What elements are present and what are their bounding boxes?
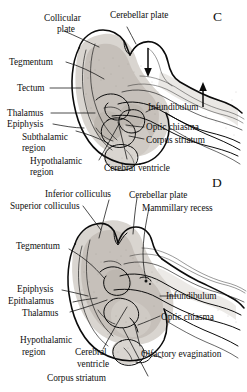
- panel-letter-c: C: [213, 9, 222, 24]
- panel-c: Collicular plate Cerebellar plate Tegmen…: [7, 9, 244, 177]
- mammillary-recess-marker: [145, 280, 148, 283]
- label-d-epithalamus: Epithalamus: [8, 296, 54, 306]
- label-d-olfactory-evagination: Olfactory evagination: [141, 349, 222, 359]
- label-d-cerebral-ventricle-line2: ventricle: [77, 359, 109, 369]
- label-d-cerebral-ventricle-line1: Cerebral: [75, 347, 107, 357]
- label-c-subthalamic-region-line1: Subthalamic: [22, 132, 68, 142]
- label-c-tegmentum: Tegmentum: [9, 57, 54, 67]
- label-c-subthalamic-region-line2: region: [22, 143, 46, 153]
- mammillary-recess-marker-2: [149, 283, 151, 285]
- label-d-inferior-colliculus: Inferior colliculus: [45, 189, 111, 199]
- c-arrow-down: [144, 48, 152, 77]
- label-c-epiphysis: Epiphysis: [7, 119, 44, 129]
- label-c-infundibulum: Infundibulum: [148, 102, 199, 112]
- anatomical-figure: Collicular plate Cerebellar plate Tegmen…: [0, 0, 247, 392]
- label-c-thalamus: Thalamus: [7, 108, 44, 118]
- label-d-tegmentum: Tegmentum: [16, 241, 61, 251]
- label-c-optic-chiasma: Optic chiasma: [146, 122, 199, 132]
- label-c-collicular-plate-line2: plate: [57, 24, 75, 34]
- label-d-superior-colliculus: Superior colliculus: [10, 201, 80, 211]
- figure-canvas: Collicular plate Cerebellar plate Tegmen…: [0, 0, 247, 392]
- leader-c-cerebellar-plate: [127, 27, 136, 44]
- label-c-hypothalamic-region-line2: region: [30, 167, 54, 177]
- leader-d-cerebellar-plate: [133, 198, 137, 234]
- label-d-hypothalamic-region-line2: region: [22, 347, 46, 357]
- label-c-corpus-striatum: Corpus striatum: [146, 135, 206, 145]
- panel-letter-d: D: [212, 175, 222, 190]
- label-d-optic-chiasma: Optic chiasma: [161, 312, 214, 322]
- label-d-cerebellar-plate: Cerebellar plate: [129, 190, 187, 200]
- label-c-hypothalamic-region-line1: Hypothalamic: [30, 156, 82, 166]
- label-d-infundibulum: Infundibulum: [166, 291, 217, 301]
- label-c-cerebellar-plate: Cerebellar plate: [110, 10, 168, 20]
- label-d-epiphysis: Epiphysis: [17, 284, 54, 294]
- label-d-thalamus: Thalamus: [22, 308, 59, 318]
- label-c-tectum: Tectum: [17, 83, 45, 93]
- label-c-cerebral-ventricle: Cerebral ventricle: [104, 163, 170, 173]
- label-d-mammillary-recess: Mammillary recess: [142, 203, 213, 213]
- panel-d: Inferior colliculus Superior colliculus …: [8, 175, 246, 383]
- label-c-collicular-plate-line1: Collicular: [44, 13, 82, 23]
- label-d-corpus-striatum: Corpus striatum: [47, 373, 107, 383]
- label-d-hypothalamic-region-line1: Hypothalamic: [20, 335, 72, 345]
